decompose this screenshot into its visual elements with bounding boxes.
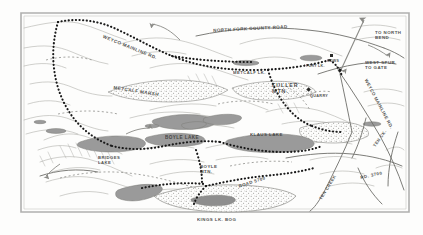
small-pond-west2	[34, 120, 46, 123]
small-pond-west	[46, 129, 66, 134]
hdws-marker	[330, 54, 333, 57]
label-west-spur-to-gate: WEST SPUR TO GATE	[365, 60, 395, 70]
label-quarry: QUARRY	[310, 94, 328, 98]
hand-drawn-map: WEYCO MAINLINE RD. NORTH FORK COUNTY ROA…	[0, 0, 423, 235]
label-klaus-lake: KLAUS LAKE	[250, 132, 283, 137]
label-kings-lk-bog: KINGS LK. BOG	[197, 217, 236, 222]
pond-north-mid	[145, 124, 159, 128]
label-to-north-bend: TO NORTH BEND	[375, 30, 401, 40]
junction-marker	[338, 68, 341, 71]
map-canvas	[0, 0, 423, 235]
label-fuller-mtn: FULLER MTN.	[272, 82, 299, 95]
fury-lk-water	[300, 55, 322, 61]
label-metcalf-lk: METCALF LK.	[233, 70, 266, 75]
label-hdws: HDWS	[327, 59, 339, 63]
label-bridges-lake: BRIDGES LAKE	[98, 155, 120, 165]
label-boyle-lake: BOYLE LAKE	[165, 135, 199, 140]
label-fury-lk: FURY LK.	[306, 64, 325, 68]
label-boyle-mtn: BOYLE MTN.	[200, 164, 217, 174]
